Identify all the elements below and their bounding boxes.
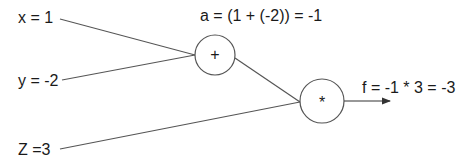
edge-x-to-add bbox=[60, 19, 195, 55]
computational-graph: + * x = 1 y = -2 Z =3 a = (1 + (-2)) = -… bbox=[0, 0, 472, 165]
add-node: + bbox=[195, 35, 235, 75]
edge-z-to-mul bbox=[60, 102, 300, 149]
add-symbol: + bbox=[210, 46, 219, 63]
input-z-label: Z =3 bbox=[18, 142, 50, 158]
add-result-label: a = (1 + (-2)) = -1 bbox=[200, 8, 322, 24]
edge-add-to-mul bbox=[235, 58, 300, 102]
multiply-result-label: f = -1 * 3 = -3 bbox=[362, 80, 455, 96]
multiply-symbol: * bbox=[319, 94, 325, 111]
input-x-label: x = 1 bbox=[18, 10, 53, 26]
edge-y-to-add bbox=[62, 55, 195, 80]
input-y-label: y = -2 bbox=[18, 73, 58, 89]
multiply-node: * bbox=[300, 79, 344, 123]
